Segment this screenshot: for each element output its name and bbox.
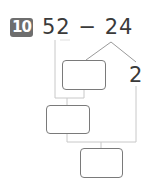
answer-box-bottom[interactable] <box>80 148 123 178</box>
subtraction-expression: 52 − 24 <box>42 14 133 40</box>
problem-number-badge: 10 <box>10 18 33 37</box>
answer-box-middle[interactable] <box>46 105 90 134</box>
split-value: 2 <box>129 64 142 86</box>
answer-box-top[interactable] <box>62 60 106 90</box>
